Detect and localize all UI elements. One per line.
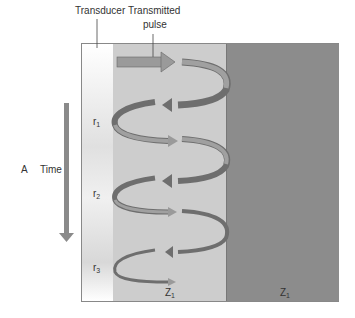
transmitted-pulse-label-line2: pulse <box>143 19 167 30</box>
r3-label: r3 <box>93 262 100 274</box>
r1-label: r1 <box>93 116 100 128</box>
time-label: Time <box>40 164 62 175</box>
transmitted-pulse-label-line1: Transmitted <box>128 5 180 16</box>
r2-label: r2 <box>93 188 100 200</box>
medium-z2-label: Z1 <box>280 287 290 299</box>
medium-z1-label: Z1 <box>165 287 175 299</box>
panel-label: A <box>21 164 28 175</box>
transmitted-pulse-arrow-icon <box>117 52 175 72</box>
pulse-echo-arrows <box>0 0 355 318</box>
transducer-label: Transducer <box>75 5 125 16</box>
